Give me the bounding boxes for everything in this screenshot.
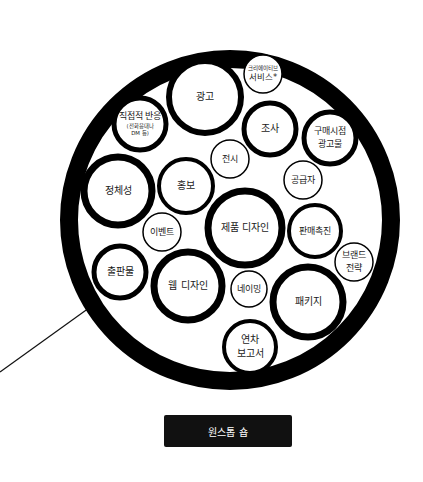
bubble-label: 전략 <box>346 262 362 273</box>
bubble-label: 홍보 <box>177 179 195 191</box>
bubble-exhibition: 전시 <box>211 140 249 178</box>
bubble-label: 연차 <box>241 334 259 345</box>
bubble-annual-report: 연차보고서 <box>224 321 276 373</box>
bubble-naming: 네이밍 <box>231 271 267 307</box>
bubble-label: 광고물 <box>318 138 342 149</box>
bubble-label: 전시 <box>222 154 238 164</box>
service-bubble-diagram: 광고크리에이티브서비스*직접적 반응(전화응대나DM 등)조사구매시점광고물전시… <box>0 0 423 482</box>
bubble-brand-strategy: 브랜드전략 <box>335 243 373 281</box>
bubble-label: 직접적 반응 <box>119 110 162 121</box>
bubble-label: 크리에이티브 <box>248 64 278 72</box>
bubble-events: 이벤트 <box>143 213 181 251</box>
bubble-label: (전화응대나 <box>126 122 153 130</box>
bubble-public-relations: 홍보 <box>159 159 213 213</box>
one-stop-shop-label: 원스톱 숍 <box>208 424 247 439</box>
bubble-label: 광고 <box>196 91 214 102</box>
bubble-label: 조사 <box>261 123 279 134</box>
bubble-label: 판매촉진 <box>299 226 331 236</box>
bubble-label: 제품 디자인 <box>221 222 269 233</box>
bubble-label: 공급자 <box>291 175 316 185</box>
bubble-research: 조사 <box>244 103 296 155</box>
bubble-sales-promotion: 판매촉진 <box>289 205 341 257</box>
bubble-creative-services: 크리에이티브서비스* <box>244 55 282 93</box>
bubble-label: 패키지 <box>295 296 322 307</box>
pointer-line <box>0 308 89 372</box>
bubble-label: 웹 디자인 <box>168 280 207 291</box>
bubble-label: DM 등) <box>131 130 149 136</box>
bubble-web-design: 웹 디자인 <box>154 252 222 320</box>
one-stop-shop-button[interactable]: 원스톱 숍 <box>164 415 292 447</box>
bubble-publications: 출판물 <box>94 246 146 298</box>
bubble-label: 서비스* <box>249 72 277 82</box>
bubble-point-of-purchase: 구매시점광고물 <box>304 112 356 164</box>
bubble-supplier: 공급자 <box>284 161 322 199</box>
bubble-product-design: 제품 디자인 <box>208 191 282 265</box>
bubble-identity: 정체성 <box>84 157 152 225</box>
bubble-label: 네이밍 <box>237 284 261 294</box>
bubble-advertising: 광고 <box>169 61 241 133</box>
bubble-packaging: 패키지 <box>273 267 343 337</box>
bubble-label: 출판물 <box>107 266 134 277</box>
bubble-label: 구매시점 <box>314 125 346 136</box>
bubble-direct-response: 직접적 반응(전화응대나DM 등) <box>114 98 166 150</box>
bubble-label: 보고서 <box>237 348 264 359</box>
bubble-label: 브랜드 <box>342 250 366 260</box>
bubble-label: 정체성 <box>105 185 132 196</box>
bubble-label: 이벤트 <box>150 227 174 237</box>
